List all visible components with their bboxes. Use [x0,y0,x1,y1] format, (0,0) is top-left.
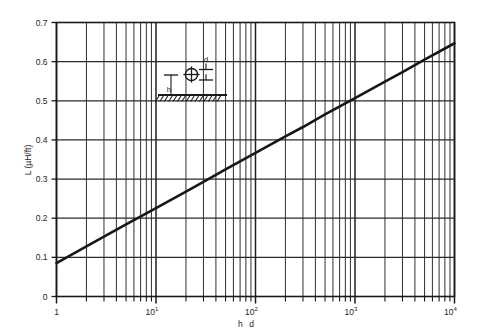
chart-svg: 1101102103104 00.10.20.30.40.50.60.7 h d… [0,0,481,336]
y-tick-label: 0.2 [36,213,48,223]
x-tick-label: 1 [54,307,59,317]
inset-h-label: h [167,85,171,94]
y-tick-label: 0.4 [36,135,48,145]
y-tick-label: 0.6 [36,57,48,67]
chart-figure: 1101102103104 00.10.20.30.40.50.60.7 h d… [0,0,481,336]
x-axis-title-h: h [238,319,243,329]
y-tick-label: 0.3 [36,174,48,184]
y-tick-label: 0.5 [36,96,48,106]
y-tick-label: 0.1 [36,252,48,262]
x-axis-title-d: d [249,319,254,329]
inset-d-label: d [204,55,208,64]
y-tick-label: 0.7 [36,18,48,28]
y-tick-label: 0 [43,292,48,302]
y-axis-title: L (µH/ft) [23,145,33,176]
